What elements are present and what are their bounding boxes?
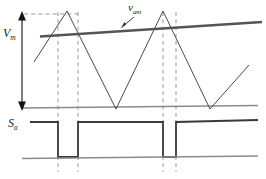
reference-label-subscript: am: [133, 8, 141, 15]
figure-root: Vm vam Sa: [0, 0, 266, 179]
amplitude-label-subscript: m: [10, 33, 15, 42]
switching-label-subscript: a: [14, 123, 18, 132]
amplitude-label-vm: Vm: [3, 27, 16, 42]
waveform-canvas: [0, 0, 266, 179]
dashed-time-markers: [58, 12, 176, 172]
reference-leader-arrow: [121, 17, 134, 29]
switching-label-sa: Sa: [8, 117, 18, 132]
reference-label-vam: vam: [128, 2, 141, 16]
arrow-head-up: [18, 11, 26, 21]
upper-baseline: [22, 106, 258, 109]
amplitude-arrow-vm: [18, 11, 26, 111]
arrow-head-down: [18, 102, 26, 112]
switching-waveform-sa: [30, 120, 258, 157]
